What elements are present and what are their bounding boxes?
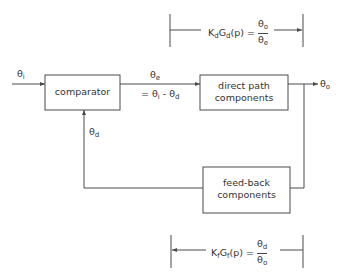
subscript: e [156, 74, 160, 82]
error-definition: = θi - θd [141, 88, 179, 101]
transfer-symbol: G [219, 27, 226, 38]
denominator-subscript: e [264, 39, 268, 47]
minus-theta: - θ [160, 88, 175, 99]
operator-argument: (p) = [231, 27, 255, 38]
direct-path-label-line1: direct path [200, 80, 288, 92]
diagram-canvas [0, 0, 345, 277]
denominator: θe [258, 34, 268, 49]
numerator: θd [257, 238, 267, 254]
subscript: o [326, 83, 330, 91]
direct-path-label: direct path components [200, 80, 288, 104]
subscript-d: d [175, 93, 179, 101]
error-signal-label: θe [150, 69, 160, 82]
feedback-label-line1: feed-back [203, 177, 290, 189]
numerator-subscript: d [263, 243, 267, 251]
numerator: θo [258, 18, 268, 34]
fraction: θo θe [258, 18, 268, 49]
direct-path-label-line2: components [200, 92, 288, 104]
subscript: i [23, 73, 25, 81]
numerator-subscript: o [264, 23, 268, 31]
feedback-transfer-function: KfGf(p) = θd θo [208, 238, 270, 269]
denominator-subscript: o [263, 259, 267, 267]
feedback-label: feed-back components [203, 177, 290, 201]
input-signal-label: θi [17, 68, 25, 81]
comparator-label: comparator [45, 86, 120, 98]
equals-theta: = θ [141, 88, 158, 99]
output-signal-label: θo [320, 78, 330, 91]
denominator: θo [257, 254, 267, 269]
subscript: d [95, 131, 99, 139]
transfer-symbol: G [220, 247, 227, 258]
feedback-label-line2: components [203, 189, 290, 201]
direct-path-transfer-function: KdGd(p) = θo θe [205, 18, 271, 49]
feedback-signal-label: θd [89, 126, 99, 139]
operator-argument: (p) = [230, 247, 254, 258]
fraction: θd θo [257, 238, 267, 269]
